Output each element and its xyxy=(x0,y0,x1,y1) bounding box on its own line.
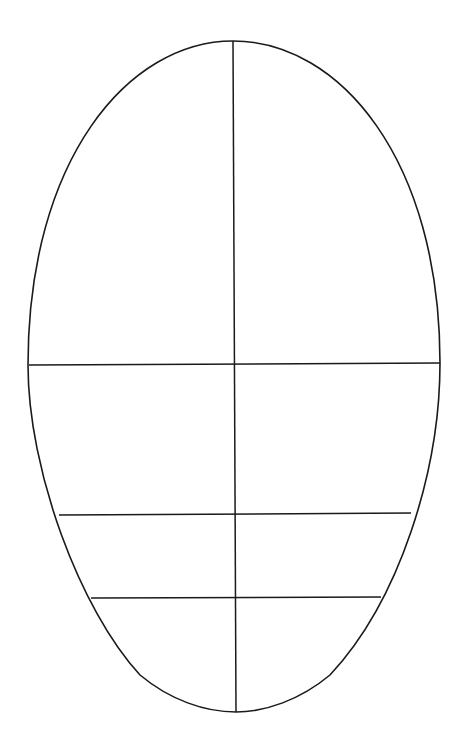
mouth-line xyxy=(91,597,381,598)
center-vertical-line xyxy=(233,41,236,712)
nose-line xyxy=(59,513,411,515)
eye-line xyxy=(29,363,440,365)
face-proportion-diagram xyxy=(0,0,457,750)
